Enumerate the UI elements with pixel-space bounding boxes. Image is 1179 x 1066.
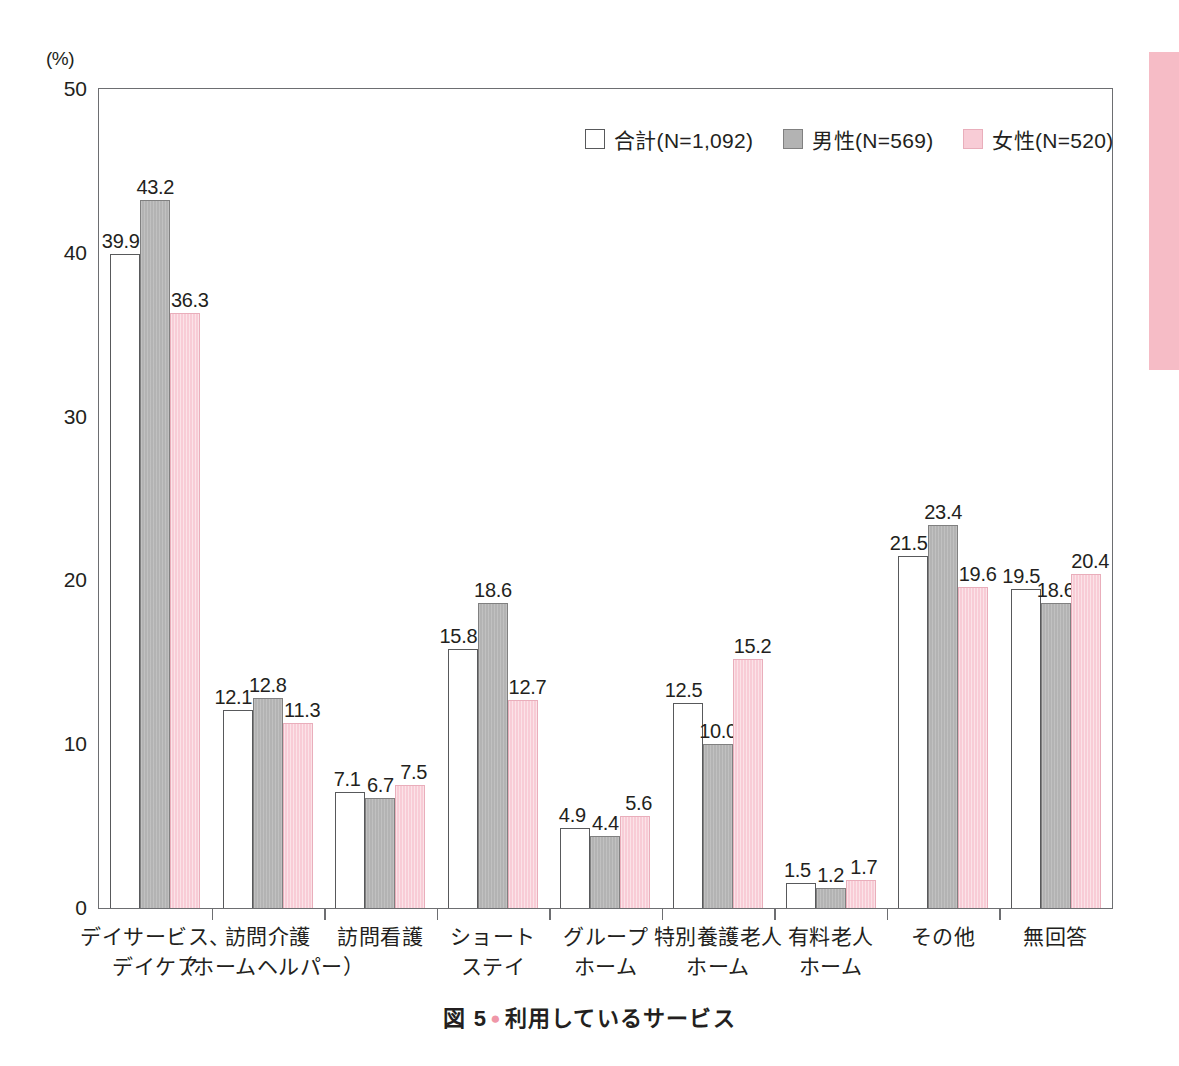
x-tick-mark xyxy=(999,909,1000,920)
y-tick-label: 20 xyxy=(27,568,87,592)
bar-slot: 43.2 xyxy=(140,89,170,908)
chart-figure: (%) 50403020100 39.943.236.312.112.811.3… xyxy=(0,0,1179,1066)
legend-swatch-male xyxy=(783,129,803,149)
bar-value-label: 12.7 xyxy=(509,676,547,699)
bar-male: 10.0 xyxy=(703,744,733,908)
bar-slot: 12.1 xyxy=(223,89,253,908)
bar-slot: 12.8 xyxy=(253,89,283,908)
x-category-line2: ホーム xyxy=(788,952,874,982)
bar-slot: 39.9 xyxy=(110,89,140,908)
bar-value-label: 21.5 xyxy=(890,532,928,555)
bar-value-label: 10.0 xyxy=(699,720,737,743)
bar-female: 36.3 xyxy=(170,313,200,908)
bar-value-label: 19.5 xyxy=(1002,565,1040,588)
bar-female: 5.6 xyxy=(620,816,650,908)
bar-group: 39.943.236.3 xyxy=(99,89,212,908)
x-category-line1: グループ xyxy=(563,925,648,948)
bar-value-label: 36.3 xyxy=(171,289,209,312)
x-category-label: 訪問介護（ホームヘルパー） xyxy=(172,922,365,982)
bar-value-label: 4.9 xyxy=(559,804,586,827)
bar-slot: 19.6 xyxy=(958,89,988,908)
legend-item-female: 女性(N=520) xyxy=(963,124,1113,154)
caption-prefix: 図 5 xyxy=(443,1006,487,1031)
bar-slot: 15.2 xyxy=(733,89,763,908)
legend-swatch-total xyxy=(585,129,605,149)
bar-value-label: 12.8 xyxy=(249,674,287,697)
bar-female: 11.3 xyxy=(283,723,313,908)
y-tick-label: 40 xyxy=(27,241,87,265)
bar-slot: 7.5 xyxy=(395,89,425,908)
bar-value-label: 19.6 xyxy=(959,563,997,586)
x-tick-mark xyxy=(549,909,550,920)
bar-group: 21.523.419.6 xyxy=(887,89,1000,908)
x-category-line1: 特別養護老人 xyxy=(654,925,783,948)
bar-female: 19.6 xyxy=(958,587,988,908)
bar-slot: 12.7 xyxy=(508,89,538,908)
bar-total: 21.5 xyxy=(898,556,928,908)
x-category-label: 訪問看護 xyxy=(337,922,423,952)
bar-group: 4.94.45.6 xyxy=(549,89,662,908)
bar-total: 7.1 xyxy=(335,792,365,908)
bar-female: 20.4 xyxy=(1071,574,1101,908)
caption-title: 利用しているサービス xyxy=(505,1006,736,1031)
bar-slot: 1.5 xyxy=(786,89,816,908)
x-tick-mark xyxy=(324,909,325,920)
bar-female: 7.5 xyxy=(395,785,425,908)
bar-slot: 1.7 xyxy=(846,89,876,908)
x-category-line1: 無回答 xyxy=(1023,925,1088,948)
bar-slot: 12.5 xyxy=(673,89,703,908)
bar-value-label: 39.9 xyxy=(102,230,140,253)
bar-male: 23.4 xyxy=(928,525,958,908)
x-category-line1: ショート xyxy=(450,925,536,948)
bar-slot: 18.6 xyxy=(478,89,508,908)
x-category-line2: （ホームヘルパー） xyxy=(172,952,365,982)
y-tick-label: 0 xyxy=(27,896,87,920)
bar-slot: 5.6 xyxy=(620,89,650,908)
bar-group: 12.112.811.3 xyxy=(212,89,325,908)
bar-value-label: 1.5 xyxy=(784,859,811,882)
x-category-label: ショートステイ xyxy=(450,922,536,982)
bar-slot: 20.4 xyxy=(1071,89,1101,908)
bar-value-label: 12.5 xyxy=(665,679,703,702)
x-category-line2: ホーム xyxy=(654,952,783,982)
bar-group: 19.518.620.4 xyxy=(999,89,1112,908)
bar-value-label: 43.2 xyxy=(136,176,174,199)
bar-slot: 19.5 xyxy=(1011,89,1041,908)
x-category-line1: 訪問看護 xyxy=(337,925,423,948)
legend-swatch-female xyxy=(963,129,983,149)
bar-total: 39.9 xyxy=(110,254,140,908)
bar-total: 15.8 xyxy=(448,649,478,908)
bar-value-label: 1.7 xyxy=(850,856,877,879)
bar-male: 12.8 xyxy=(253,698,283,908)
legend-label: 男性(N=569) xyxy=(812,124,933,154)
legend-item-male: 男性(N=569) xyxy=(783,124,933,154)
y-tick-label: 10 xyxy=(27,732,87,756)
x-category-label: 無回答 xyxy=(1023,922,1088,952)
bar-slot: 4.9 xyxy=(560,89,590,908)
bar-total: 1.5 xyxy=(786,883,816,908)
y-axis-unit-label: (%) xyxy=(46,48,74,70)
x-tick-mark xyxy=(662,909,663,920)
x-category-line2: ホーム xyxy=(563,952,648,982)
bar-slot: 1.2 xyxy=(816,89,846,908)
x-tick-mark xyxy=(212,909,213,920)
x-category-line1: その他 xyxy=(911,925,976,948)
legend-label: 女性(N=520) xyxy=(992,124,1113,154)
bars-area: 39.943.236.312.112.811.37.16.77.515.818.… xyxy=(99,89,1112,908)
bar-value-label: 15.2 xyxy=(734,635,772,658)
bar-slot: 21.5 xyxy=(898,89,928,908)
bar-group: 1.51.21.7 xyxy=(774,89,887,908)
y-tick-label: 50 xyxy=(27,77,87,101)
bar-male: 18.6 xyxy=(478,603,508,908)
bar-value-label: 18.6 xyxy=(474,579,512,602)
x-category-label: 特別養護老人ホーム xyxy=(654,922,783,982)
bar-value-label: 4.4 xyxy=(592,812,619,835)
bar-slot: 11.3 xyxy=(283,89,313,908)
x-tick-mark xyxy=(887,909,888,920)
bar-value-label: 6.7 xyxy=(367,774,394,797)
x-category-label: 有料老人ホーム xyxy=(788,922,874,982)
bar-total: 12.1 xyxy=(223,710,253,908)
bar-group: 7.16.77.5 xyxy=(324,89,437,908)
bar-slot: 18.6 xyxy=(1041,89,1071,908)
bar-value-label: 20.4 xyxy=(1071,550,1109,573)
